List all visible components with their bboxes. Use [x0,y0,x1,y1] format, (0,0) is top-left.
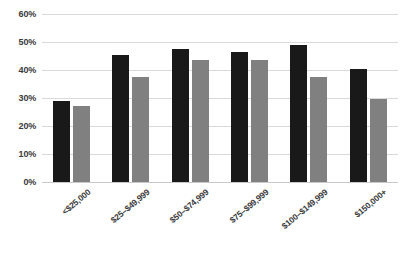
x-axis-tick-label: $50–$74,999 [168,187,211,225]
bar [172,49,189,182]
bar [53,101,70,182]
y-axis-tick-label: 0% [23,177,36,187]
bar-group [172,14,209,182]
x-axis-tick-label: <$25,000 [60,187,93,217]
x-axis-tick-label: $75–$99,999 [227,187,270,225]
bar [132,77,149,182]
plot-area [42,14,398,182]
bars-layer [42,14,398,182]
bar-chart: 0%10%20%30%40%50%60% <$25,000$25–$49,999… [0,0,414,261]
bar [310,77,327,182]
bar [290,45,307,182]
x-axis-tick-label: $100–$149,999 [280,187,330,231]
bar-group [350,14,387,182]
bar [192,60,209,182]
bar [73,106,90,182]
y-axis-tick-label: 10% [19,149,36,159]
y-axis: 0%10%20%30%40%50%60% [0,0,42,261]
x-axis-tick-label: $25–$49,999 [109,187,152,225]
bar [370,99,387,182]
x-axis-tick-label: $150,000+ [353,187,389,219]
y-axis-tick-label: 50% [19,37,36,47]
bar [251,60,268,182]
y-axis-tick-label: 20% [19,121,36,131]
bar-group [231,14,268,182]
bar-group [112,14,149,182]
bar [112,55,129,182]
x-axis: <$25,000$25–$49,999$50–$74,999$75–$99,99… [42,183,398,261]
y-axis-tick-label: 30% [19,93,36,103]
bar-group [290,14,327,182]
bar [231,52,248,182]
bar [350,69,367,182]
bar-group [53,14,90,182]
y-axis-tick-label: 60% [19,9,36,19]
y-axis-tick-label: 40% [19,65,36,75]
